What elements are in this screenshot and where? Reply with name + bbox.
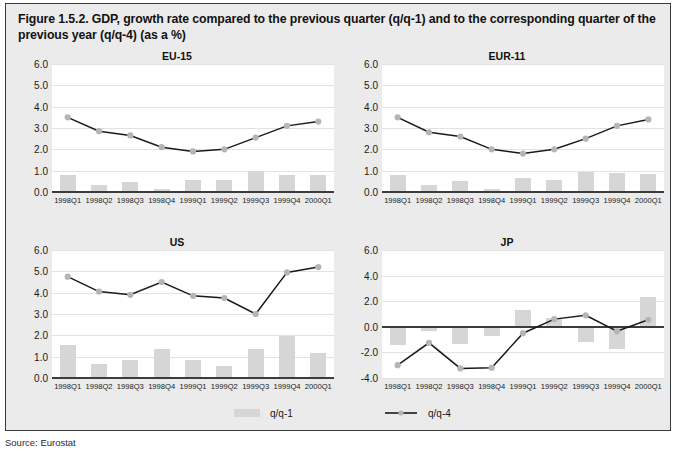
data-point-marker	[253, 311, 259, 317]
source-note: Source: Eurostat	[5, 437, 76, 448]
x-tick-label: 1999Q1	[179, 382, 206, 391]
x-tick-label: 2000Q1	[305, 196, 332, 205]
data-point-marker	[457, 133, 463, 139]
x-axis-labels: 1998Q11998Q21998Q31998Q41999Q11999Q21999…	[382, 382, 664, 396]
data-point-marker	[426, 129, 432, 135]
y-tick-label: 1.0	[34, 165, 48, 176]
x-tick-label: 1999Q2	[541, 196, 568, 205]
x-tick-label: 1999Q4	[273, 382, 300, 391]
y-tick-label: -2.0	[361, 347, 378, 358]
y-tick-label: 6.0	[34, 59, 48, 70]
data-point-marker	[284, 269, 290, 275]
x-tick-label: 1999Q2	[211, 382, 238, 391]
data-point-marker	[127, 132, 133, 138]
y-tick-label: 2.0	[34, 330, 48, 341]
data-point-marker	[614, 123, 620, 129]
data-point-marker	[395, 114, 401, 120]
data-point-marker	[489, 365, 495, 371]
y-tick-label: 3.0	[34, 123, 48, 134]
data-point-marker	[284, 123, 290, 129]
y-tick-label: 4.0	[364, 101, 378, 112]
y-axis-labels: 0.01.02.03.04.05.06.0	[16, 236, 48, 388]
x-tick-label: 1999Q4	[603, 382, 630, 391]
y-tick-label: 5.0	[34, 266, 48, 277]
chart-panel-eur11: EUR-11 0.01.02.03.04.05.06.01998Q11998Q2…	[346, 50, 668, 228]
x-tick-label: 1998Q2	[85, 196, 112, 205]
x-tick-label: 1999Q1	[509, 382, 536, 391]
chart-title-eu15: EU-15	[16, 50, 338, 62]
chart-title-us: US	[16, 236, 338, 248]
data-point-marker	[221, 146, 227, 152]
x-tick-label: 1998Q1	[54, 382, 81, 391]
data-point-marker	[520, 330, 526, 336]
x-tick-label: 2000Q1	[635, 382, 662, 391]
x-tick-label: 1998Q2	[415, 196, 442, 205]
chart-panel-us: US 0.01.02.03.04.05.06.01998Q11998Q21998…	[16, 236, 338, 414]
x-tick-label: 1998Q3	[447, 382, 474, 391]
y-tick-label: 3.0	[364, 123, 378, 134]
y-tick-label: 2.0	[364, 144, 378, 155]
data-point-marker	[221, 295, 227, 301]
x-axis-labels: 1998Q11998Q21998Q31998Q41999Q11999Q21999…	[52, 382, 334, 396]
y-tick-label: 1.0	[34, 351, 48, 362]
data-point-marker	[645, 317, 651, 323]
chart-title-jp: JP	[346, 236, 668, 248]
plot-area	[382, 250, 664, 378]
x-tick-label: 1998Q4	[478, 196, 505, 205]
data-point-marker	[190, 293, 196, 299]
x-tick-label: 1998Q4	[148, 382, 175, 391]
x-tick-label: 1999Q2	[541, 382, 568, 391]
gridline	[382, 378, 664, 379]
data-point-marker	[315, 264, 321, 270]
data-point-marker	[551, 316, 557, 322]
x-tick-label: 1998Q2	[415, 382, 442, 391]
x-tick-label: 1999Q3	[242, 382, 269, 391]
y-tick-label: 0.0	[34, 187, 48, 198]
plot-area	[52, 64, 334, 192]
x-tick-label: 1999Q1	[179, 196, 206, 205]
data-point-marker	[65, 114, 71, 120]
y-tick-label: 4.0	[34, 287, 48, 298]
data-point-marker	[315, 119, 321, 125]
line-series	[52, 64, 334, 192]
data-point-marker	[520, 151, 526, 157]
data-point-marker	[65, 274, 71, 280]
figure-title: Figure 1.5.2. GDP, growth rate compared …	[18, 11, 658, 43]
y-tick-label: 4.0	[364, 270, 378, 281]
data-point-marker	[489, 146, 495, 152]
legend-line-label: q/q-4	[428, 408, 451, 419]
line-series	[382, 250, 664, 378]
x-tick-label: 1999Q4	[603, 196, 630, 205]
x-tick-label: 2000Q1	[635, 196, 662, 205]
y-tick-label: 2.0	[34, 144, 48, 155]
y-tick-label: -4.0	[361, 373, 378, 384]
data-point-marker	[614, 328, 620, 334]
x-axis-labels: 1998Q11998Q21998Q31998Q41999Q11999Q21999…	[52, 196, 334, 210]
y-tick-label: 4.0	[34, 101, 48, 112]
y-tick-label: 0.0	[34, 373, 48, 384]
y-axis-labels: -4.0-2.00.02.04.06.0	[346, 236, 378, 388]
y-tick-label: 6.0	[364, 59, 378, 70]
y-tick-label: 0.0	[364, 321, 378, 332]
data-point-marker	[645, 116, 651, 122]
chart-panel-jp: JP -4.0-2.00.02.04.06.01998Q11998Q21998Q…	[346, 236, 668, 414]
legend-line-swatch	[384, 408, 418, 418]
chart-legend: q/q-1 q/q-4	[6, 404, 672, 424]
data-point-marker	[583, 312, 589, 318]
x-tick-label: 1998Q3	[117, 382, 144, 391]
y-tick-label: 6.0	[34, 245, 48, 256]
data-point-marker	[457, 365, 463, 371]
data-point-marker	[583, 136, 589, 142]
x-tick-label: 1998Q4	[478, 382, 505, 391]
data-point-marker	[127, 292, 133, 298]
line-series	[382, 64, 664, 192]
data-point-marker	[159, 279, 165, 285]
x-tick-label: 1998Q3	[447, 196, 474, 205]
data-point-marker	[551, 146, 557, 152]
chart-panel-eu15: EU-15 0.01.02.03.04.05.06.01998Q11998Q21…	[16, 50, 338, 228]
y-tick-label: 6.0	[364, 245, 378, 256]
plot-area	[382, 64, 664, 192]
x-tick-label: 1999Q3	[242, 196, 269, 205]
x-tick-label: 1999Q2	[211, 196, 238, 205]
data-point-marker	[395, 362, 401, 368]
